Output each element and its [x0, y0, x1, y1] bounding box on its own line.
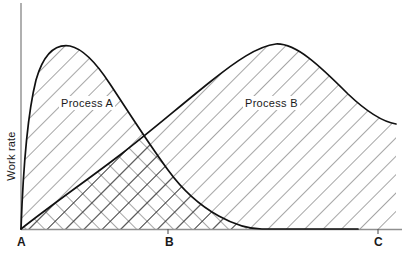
chart-plot	[0, 0, 407, 257]
y-axis-title: Work rate	[5, 123, 17, 189]
x-tick-label-c: C	[374, 236, 383, 248]
x-tick-label-b: B	[165, 236, 174, 248]
x-tick-label-a: A	[17, 236, 26, 248]
series-label-process-b: Process B	[243, 96, 300, 110]
below-axis-mask	[0, 230, 407, 257]
series-label-process-a: Process A	[59, 96, 115, 110]
work-rate-figure: Work rate A B C Process A Process B	[0, 0, 407, 257]
